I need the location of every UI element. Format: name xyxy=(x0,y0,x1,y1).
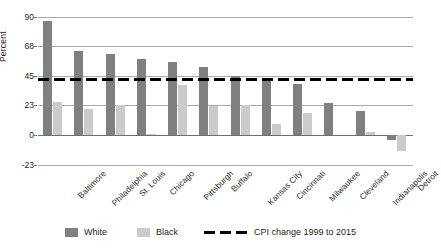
y-tick-label: 23 xyxy=(25,101,34,109)
bar-black-baltimore xyxy=(53,102,62,135)
x-axis-label-chicago: Chicago xyxy=(168,169,196,197)
bar-white-cincinnati xyxy=(262,80,271,135)
bar-white-indianapolis xyxy=(356,111,365,135)
bar-black-kansas-city xyxy=(241,105,250,135)
y-tick-label: -23 xyxy=(22,161,34,169)
y-tick-mark xyxy=(34,135,37,136)
bar-white-st-louis xyxy=(106,54,115,135)
gridline-0 xyxy=(38,135,413,136)
bar-black-indianapolis xyxy=(366,132,375,135)
gridline-90 xyxy=(38,17,413,18)
y-tick-label: 45 xyxy=(25,72,34,80)
legend-label-white: White xyxy=(84,227,107,237)
legend-item-black: Black xyxy=(137,227,178,237)
bar-white-milwaukee xyxy=(293,84,302,135)
y-tick-mark xyxy=(34,76,37,77)
x-axis-label-milwaukee: Milwaukee xyxy=(327,169,361,203)
bar-white-pittsburgh xyxy=(168,62,177,135)
x-axis-labels: BaltimorePhiladelphiaSt. LouisChicagoPit… xyxy=(38,167,413,227)
x-axis-label-kansas-city: Kansas City xyxy=(266,169,304,207)
bar-white-philadelphia xyxy=(74,51,83,135)
bar-black-chicago xyxy=(147,134,156,135)
bar-white-kansas-city xyxy=(231,76,240,135)
legend-label-black: Black xyxy=(156,227,178,237)
x-axis-label-baltimore: Baltimore xyxy=(76,169,107,200)
bar-black-buffalo xyxy=(209,106,218,135)
gridline-68 xyxy=(38,46,413,47)
gridline-23 xyxy=(38,105,413,106)
white-series-swatch-icon xyxy=(65,228,78,237)
bar-black-cincinnati xyxy=(272,124,281,134)
cpi-reference-line xyxy=(38,78,413,81)
y-tick-mark xyxy=(34,17,37,18)
bar-white-cleveland xyxy=(324,103,333,134)
bar-black-pittsburgh xyxy=(178,85,187,135)
dashed-line-swatch-icon xyxy=(204,231,248,234)
y-tick-mark xyxy=(34,46,37,47)
chart-legend: White Black CPI change 1999 to 2015 xyxy=(0,222,421,242)
y-tick-mark xyxy=(34,165,37,166)
y-axis-tick-column: 906845230-23 xyxy=(0,17,34,165)
legend-item-cpi: CPI change 1999 to 2015 xyxy=(204,227,356,237)
bar-black-milwaukee xyxy=(303,113,312,135)
y-tick-label: 90 xyxy=(25,13,34,21)
bar-white-chicago xyxy=(137,59,146,135)
legend-label-cpi: CPI change 1999 to 2015 xyxy=(254,227,356,237)
gridline--23 xyxy=(38,165,413,166)
legend-item-white: White xyxy=(65,227,107,237)
y-tick-mark xyxy=(34,105,37,106)
bar-black-detroit xyxy=(397,135,406,151)
bar-black-st-louis xyxy=(116,105,125,135)
plot-area xyxy=(38,17,413,165)
black-series-swatch-icon xyxy=(137,228,150,237)
y-tick-label: 68 xyxy=(25,42,34,50)
bar-white-detroit xyxy=(387,135,396,140)
x-axis-label-cleveland: Cleveland xyxy=(358,169,391,202)
bar-black-philadelphia xyxy=(84,109,93,135)
